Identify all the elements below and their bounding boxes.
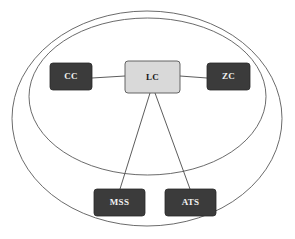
node-lc[interactable]: LC [125,61,180,93]
node-cc[interactable]: CC [50,63,92,90]
node-mss-label: MSS [110,197,129,207]
node-zc[interactable]: ZC [207,63,250,90]
link-cc-lc [92,76,125,78]
inner-boundary-ellipse [29,18,266,175]
outer-boundary-ellipse [12,11,282,226]
node-ats-label: ATS [182,197,200,207]
boundary-group [12,11,282,226]
diagram-canvas: CC LC ZC MSS ATS [0,0,295,239]
node-lc-label: LC [146,72,159,82]
node-mss[interactable]: MSS [94,189,145,216]
link-lc-zc [180,76,207,78]
node-ats[interactable]: ATS [165,189,216,216]
node-zc-label: ZC [222,71,235,81]
architecture-diagram: CC LC ZC MSS ATS [0,0,295,239]
node-cc-label: CC [64,71,78,81]
